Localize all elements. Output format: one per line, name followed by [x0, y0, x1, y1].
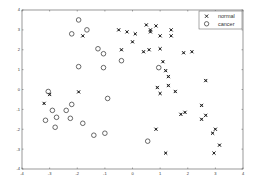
x-tick-label: -4	[20, 171, 24, 176]
x-tick-label: 0	[131, 171, 134, 176]
x-tick-label: 4	[242, 171, 245, 176]
y-tick-label: -3	[16, 147, 20, 152]
y-tick-label: 0	[18, 87, 21, 92]
y-tick-label: 4	[18, 7, 21, 12]
y-tick-label: 1	[18, 67, 21, 72]
axes-box	[22, 10, 243, 169]
plot-area	[22, 10, 243, 169]
legend-label-normal: normal	[218, 13, 235, 19]
scatter-chart: -4-3-2-101234 -4-3-2-101234 normal cance…	[0, 0, 256, 188]
x-tick-label: 3	[214, 171, 217, 176]
x-tick-label: 2	[187, 171, 190, 176]
y-tick-label: -1	[16, 107, 20, 112]
x-axis-tick-labels: -4-3-2-101234	[20, 171, 245, 176]
x-tick-label: -2	[75, 171, 79, 176]
legend-label-cancer: cancer	[218, 21, 235, 27]
x-tick-label: -3	[48, 171, 52, 176]
y-tick-label: -2	[16, 127, 20, 132]
legend: normal cancer	[199, 11, 242, 29]
y-tick-label: 3	[18, 27, 21, 32]
y-tick-label: 2	[18, 47, 21, 52]
y-axis-tick-labels: -4-3-2-101234	[16, 7, 20, 171]
x-tick-label: 1	[159, 171, 162, 176]
x-tick-label: -1	[103, 171, 107, 176]
